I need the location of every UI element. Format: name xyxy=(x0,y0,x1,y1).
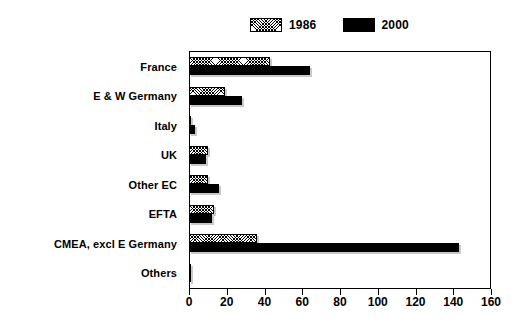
chart-legend: 1986 2000 xyxy=(250,14,409,36)
bar-1986 xyxy=(189,234,257,243)
y-axis-label: E & W Germany xyxy=(0,82,183,112)
y-axis-label: UK xyxy=(0,141,183,171)
x-axis-tick-label: 60 xyxy=(296,296,309,308)
bar-group xyxy=(189,111,491,141)
x-axis-tick-label: 0 xyxy=(186,296,193,308)
bar-group xyxy=(189,170,491,200)
y-axis-label: Italy xyxy=(0,111,183,141)
bar-1986 xyxy=(189,264,191,273)
bar-group xyxy=(189,141,491,171)
y-axis-label: France xyxy=(0,52,183,82)
bar-1986 xyxy=(189,205,214,214)
bar-1986 xyxy=(189,87,225,96)
plot-bars-container xyxy=(189,52,491,288)
x-axis-tick-label: 160 xyxy=(481,296,501,308)
legend-label-2000: 2000 xyxy=(382,19,410,31)
bar-group xyxy=(189,200,491,230)
bar-group xyxy=(189,229,491,259)
legend-swatch-2000-icon xyxy=(343,18,375,32)
x-axis-tick-label: 80 xyxy=(333,296,346,308)
legend-entry-2000: 2000 xyxy=(343,18,410,32)
legend-swatch-1986-icon xyxy=(250,18,282,32)
bar-1986 xyxy=(189,146,208,155)
y-axis-label: Other EC xyxy=(0,170,183,200)
bar-chart: 1986 2000 FranceE & W GermanyItalyUKOthe… xyxy=(0,0,528,329)
bar-group xyxy=(189,259,491,289)
y-axis-category-labels: FranceE & W GermanyItalyUKOther ECEFTACM… xyxy=(0,52,183,288)
x-axis-tick-labels: 020406080100120140160 xyxy=(189,296,491,312)
x-axis-tick-label: 120 xyxy=(405,296,425,308)
y-axis-label: CMEA, excl E Germany xyxy=(0,229,183,259)
bar-group xyxy=(189,52,491,82)
bar-group xyxy=(189,82,491,112)
bar-2000 xyxy=(189,96,242,105)
bar-2000 xyxy=(189,66,310,75)
x-axis-tick-label: 40 xyxy=(258,296,271,308)
bar-1986 xyxy=(189,57,270,66)
bar-2000 xyxy=(189,184,219,193)
bar-2000 xyxy=(189,273,191,282)
legend-entry-1986: 1986 xyxy=(250,18,317,32)
bar-2000 xyxy=(189,155,206,164)
legend-label-1986: 1986 xyxy=(289,19,317,31)
bar-1986 xyxy=(189,116,191,125)
x-axis-tick-label: 20 xyxy=(220,296,233,308)
bar-1986 xyxy=(189,175,208,184)
y-axis-label: EFTA xyxy=(0,200,183,230)
y-axis-label: Others xyxy=(0,259,183,289)
bar-2000 xyxy=(189,214,212,223)
x-axis-tick-label: 100 xyxy=(368,296,388,308)
bar-2000 xyxy=(189,125,195,134)
bar-2000 xyxy=(189,243,459,252)
x-axis-tick-label: 140 xyxy=(443,296,463,308)
